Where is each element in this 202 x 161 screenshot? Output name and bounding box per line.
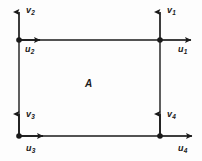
area-label-A: A (85, 79, 92, 89)
label-v1-sub: 1 (172, 9, 176, 16)
node-dot-bottom-right (157, 133, 163, 139)
label-v2: v2 (26, 6, 35, 15)
label-u3-sub: 3 (32, 147, 36, 154)
label-u1: u1 (178, 45, 187, 54)
label-u2-sub: 2 (31, 48, 35, 55)
vector-diagram-svg (0, 0, 202, 161)
label-u1-base: u (178, 44, 184, 54)
label-v3-sub: 3 (31, 113, 35, 120)
label-v4: v4 (167, 110, 176, 119)
label-u4: u4 (178, 144, 187, 153)
node-dot-bottom-left (16, 133, 22, 139)
label-v1: v1 (167, 6, 176, 15)
label-v4-sub: 4 (172, 113, 176, 120)
label-v2-sub: 2 (31, 9, 35, 16)
label-u2: u2 (25, 45, 34, 54)
label-u1-sub: 1 (184, 48, 188, 55)
label-u3-base: u (26, 143, 32, 153)
node-dot-top-right (157, 37, 163, 43)
label-u3: u3 (26, 144, 35, 153)
node-dot-top-left (16, 37, 22, 43)
label-u4-base: u (178, 143, 184, 153)
label-u4-sub: 4 (184, 147, 188, 154)
label-u2-base: u (25, 44, 31, 54)
label-v3: v3 (26, 110, 35, 119)
diagram-canvas: v1 u1 v2 u2 v3 u3 v4 u4 A (0, 0, 202, 161)
